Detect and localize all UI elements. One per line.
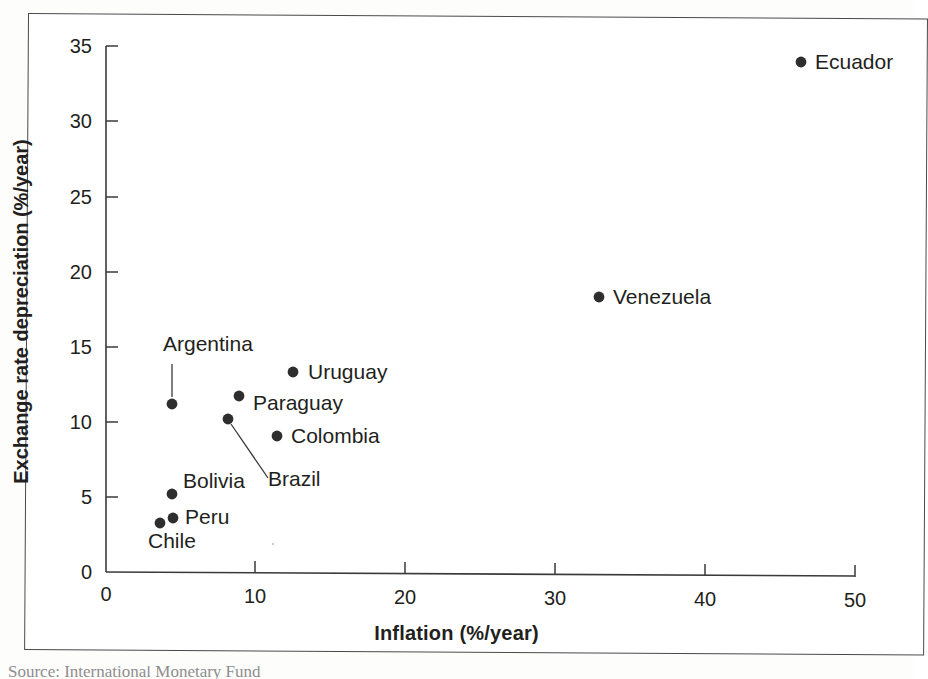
data-point-chile [155,518,166,529]
y-tick-label-25: 25 [52,187,92,207]
clipped-source-caption: Source: International Monetary Fund [8,666,708,679]
x-tick-label-30: 30 [533,588,577,608]
y-tick-label-10: 10 [52,412,92,432]
data-point-argentina [167,399,178,410]
clipped-source-caption-text: Source: International Monetary Fund [8,666,708,679]
point-label-colombia: Colombia [291,425,380,446]
data-point-uruguay [288,367,299,378]
y-axis-title: Exchange rate depreciation (%/year) [10,77,33,547]
point-label-ecuador: Ecuador [815,51,893,72]
x-axis-line [106,572,855,576]
x-axis-title: Inflation (%/year) [0,622,913,645]
x-tick-label-0: 0 [84,584,128,604]
point-label-venezuela: Venezuela [613,286,711,307]
x-tick-label-50: 50 [833,590,877,610]
data-point-brazil [223,414,234,425]
x-axis-ticks [255,561,855,577]
point-label-paraguay: Paraguay [253,392,343,413]
point-label-argentina: Argentina [163,333,253,354]
point-label-bolivia: Bolivia [183,470,245,491]
data-point-paraguay [234,391,245,402]
y-axis-ticks [106,46,118,497]
y-tick-label-0: 0 [52,562,92,582]
point-label-brazil: Brazil [268,468,321,489]
x-tick-label-40: 40 [683,589,727,609]
point-label-uruguay: Uruguay [308,361,387,382]
x-tick-label-20: 20 [383,587,427,607]
label-leader-lines [172,364,268,478]
data-point-ecuador [796,57,807,68]
data-point-colombia [272,431,283,442]
y-tick-label-15: 15 [52,337,92,357]
data-point-peru [168,513,179,524]
data-point-venezuela [594,292,605,303]
point-label-peru: Peru [185,506,229,527]
y-tick-label-30: 30 [52,111,92,131]
y-tick-label-20: 20 [52,262,92,282]
data-point-bolivia [167,489,178,500]
scan-artifact-speck [272,543,274,545]
x-tick-label-10: 10 [233,586,277,606]
point-label-chile: Chile [148,530,196,551]
y-tick-label-35: 35 [52,36,92,56]
y-tick-label-5: 5 [52,487,92,507]
